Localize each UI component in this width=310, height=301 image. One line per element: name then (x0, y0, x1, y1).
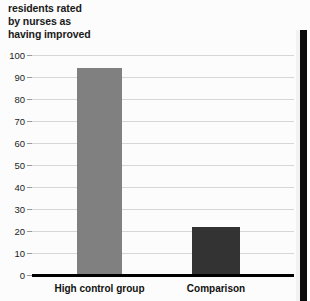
page-edge-artifact (300, 30, 307, 301)
y-axis-tick (27, 121, 32, 122)
chart-title-line-3: having improved (8, 28, 208, 41)
y-axis-tick (27, 99, 32, 100)
y-axis-label: 40 (14, 182, 25, 193)
y-axis-tick (27, 77, 32, 78)
y-axis-label: 50 (14, 160, 25, 171)
y-axis-label: 60 (14, 138, 25, 149)
x-axis-line (32, 274, 294, 277)
gridline (32, 99, 294, 100)
y-axis-tick (27, 253, 32, 254)
gridline (32, 143, 294, 144)
y-axis-tick (27, 143, 32, 144)
y-axis-label: 20 (14, 226, 25, 237)
y-axis-tick (27, 165, 32, 166)
y-axis-tick (27, 55, 32, 56)
bar-chart-figure: residents rated by nurses as having impr… (0, 0, 310, 301)
y-axis-label: 10 (14, 248, 25, 259)
gridline (32, 187, 294, 188)
gridline (32, 121, 294, 122)
gridline (32, 55, 294, 56)
y-axis-label: 0 (20, 270, 25, 281)
chart-title-line-1: residents rated (8, 2, 208, 15)
gridline (32, 253, 294, 254)
y-axis-label: 90 (14, 72, 25, 83)
gridline (32, 231, 294, 232)
bar-high-control-group (77, 68, 122, 275)
bar-comparison (192, 227, 240, 275)
gridline (32, 209, 294, 210)
y-axis-label: 30 (14, 204, 25, 215)
chart-title-line-2: by nurses as (8, 15, 208, 28)
x-axis-label-comparison: Comparison (146, 283, 286, 294)
y-axis-label: 80 (14, 94, 25, 105)
plot-area: 0102030405060708090100 (32, 55, 294, 275)
y-axis-label: 100 (9, 50, 25, 61)
y-axis-tick (27, 209, 32, 210)
y-axis-tick (27, 187, 32, 188)
y-axis-tick (27, 231, 32, 232)
gridline (32, 165, 294, 166)
gridline (32, 77, 294, 78)
chart-title: residents rated by nurses as having impr… (8, 2, 208, 42)
y-axis-label: 70 (14, 116, 25, 127)
